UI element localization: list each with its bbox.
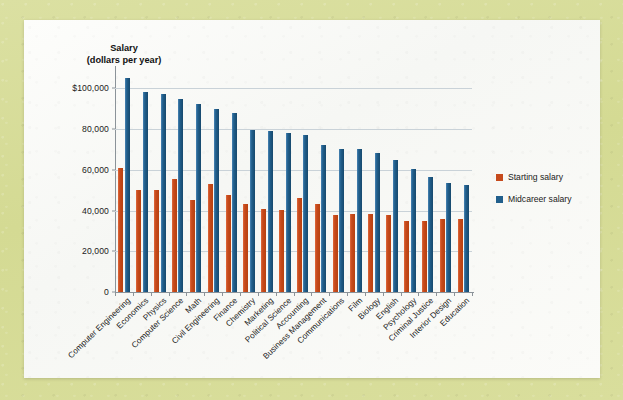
bar-starting-salary[interactable]: [172, 179, 177, 292]
legend-item[interactable]: Starting salary: [496, 172, 600, 182]
x-tick-mark: [329, 292, 330, 296]
x-tick-mark: [311, 292, 312, 296]
x-tick-mark: [436, 292, 437, 296]
bar-starting-salary[interactable]: [368, 214, 373, 292]
bar-midcareer-salary[interactable]: [250, 130, 255, 292]
bar-starting-salary[interactable]: [422, 221, 427, 292]
y-tick-label: 40,000: [23, 206, 109, 216]
chart-legend: Starting salaryMidcareer salary: [496, 172, 600, 216]
x-tick-mark: [169, 292, 170, 296]
y-tick-label: 20,000: [23, 246, 109, 256]
bar-midcareer-salary[interactable]: [375, 153, 380, 292]
y-tick-label: 80,000: [23, 124, 109, 134]
plot-area: [115, 68, 472, 292]
bar-group[interactable]: [403, 68, 421, 292]
bar-starting-salary[interactable]: [297, 198, 302, 292]
chart-card: Salary (dollars per year) $100,00080,000…: [24, 20, 600, 378]
bar-midcareer-salary[interactable]: [411, 169, 416, 292]
bar-group[interactable]: [189, 68, 207, 292]
bar-midcareer-salary[interactable]: [321, 145, 326, 292]
bar-group[interactable]: [332, 68, 350, 292]
bar-starting-salary[interactable]: [226, 195, 231, 292]
bar-midcareer-salary[interactable]: [161, 94, 166, 292]
x-tick-mark: [258, 292, 259, 296]
bar-group[interactable]: [421, 68, 439, 292]
x-tick-mark: [133, 292, 134, 296]
bar-group[interactable]: [135, 68, 153, 292]
x-tick-mark: [454, 292, 455, 296]
y-tick-label: 0: [23, 287, 109, 297]
bar-midcareer-salary[interactable]: [428, 177, 433, 292]
bar-midcareer-salary[interactable]: [196, 104, 201, 292]
x-tick-mark: [240, 292, 241, 296]
bar-group[interactable]: [153, 68, 171, 292]
bar-group[interactable]: [207, 68, 225, 292]
legend-label: Midcareer salary: [508, 194, 572, 204]
bar-group[interactable]: [439, 68, 457, 292]
bar-group[interactable]: [349, 68, 367, 292]
bar-starting-salary[interactable]: [154, 190, 159, 292]
bar-midcareer-salary[interactable]: [143, 92, 148, 292]
y-tick-label: $100,000: [23, 83, 109, 93]
bar-group[interactable]: [296, 68, 314, 292]
x-tick-mark: [401, 292, 402, 296]
bar-group[interactable]: [171, 68, 189, 292]
bar-midcareer-salary[interactable]: [357, 149, 362, 292]
bar-midcareer-salary[interactable]: [268, 131, 273, 292]
bar-midcareer-salary[interactable]: [339, 149, 344, 292]
bar-group[interactable]: [457, 68, 475, 292]
x-tick-mark: [115, 292, 116, 296]
legend-label: Starting salary: [508, 172, 563, 182]
bar-midcareer-salary[interactable]: [446, 183, 451, 292]
x-tick-mark: [347, 292, 348, 296]
x-tick-mark: [472, 292, 473, 296]
bar-starting-salary[interactable]: [315, 204, 320, 292]
y-tick-label: 60,000: [23, 165, 109, 175]
bar-midcareer-salary[interactable]: [286, 133, 291, 292]
legend-swatch-icon: [496, 196, 503, 203]
x-tick-mark: [383, 292, 384, 296]
legend-swatch-icon: [496, 174, 503, 181]
x-tick-mark: [294, 292, 295, 296]
bar-starting-salary[interactable]: [279, 210, 284, 292]
x-tick-mark: [276, 292, 277, 296]
bar-starting-salary[interactable]: [350, 214, 355, 292]
bar-midcareer-salary[interactable]: [464, 185, 469, 292]
x-tick-mark: [186, 292, 187, 296]
x-tick-mark: [418, 292, 419, 296]
bar-starting-salary[interactable]: [404, 221, 409, 292]
bar-group[interactable]: [278, 68, 296, 292]
x-tick-mark: [204, 292, 205, 296]
bar-starting-salary[interactable]: [386, 215, 391, 292]
bar-group[interactable]: [367, 68, 385, 292]
bar-starting-salary[interactable]: [136, 190, 141, 292]
bar-starting-salary[interactable]: [118, 168, 123, 292]
bar-midcareer-salary[interactable]: [214, 109, 219, 292]
bar-group[interactable]: [314, 68, 332, 292]
bar-midcareer-salary[interactable]: [303, 135, 308, 292]
bar-midcareer-salary[interactable]: [178, 99, 183, 292]
bar-midcareer-salary[interactable]: [393, 160, 398, 292]
bar-group[interactable]: [385, 68, 403, 292]
legend-item[interactable]: Midcareer salary: [496, 194, 600, 204]
bar-starting-salary[interactable]: [190, 200, 195, 292]
x-tick-mark: [222, 292, 223, 296]
bar-midcareer-salary[interactable]: [125, 78, 130, 292]
x-tick-mark: [151, 292, 152, 296]
bar-midcareer-salary[interactable]: [232, 113, 237, 292]
bar-group[interactable]: [242, 68, 260, 292]
bar-group[interactable]: [117, 68, 135, 292]
bar-starting-salary[interactable]: [208, 184, 213, 292]
bar-group[interactable]: [260, 68, 278, 292]
bar-starting-salary[interactable]: [440, 219, 445, 292]
bar-starting-salary[interactable]: [458, 219, 463, 292]
x-tick-mark: [365, 292, 366, 296]
bar-starting-salary[interactable]: [243, 204, 248, 292]
bar-group[interactable]: [225, 68, 243, 292]
bar-starting-salary[interactable]: [333, 215, 338, 292]
bar-starting-salary[interactable]: [261, 209, 266, 292]
